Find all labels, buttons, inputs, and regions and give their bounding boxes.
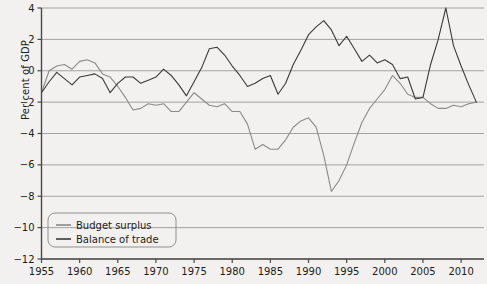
x-tick-label: 2005 — [410, 266, 435, 277]
x-axis-ticks: 1955196019651970197519801985199019952000… — [29, 259, 474, 277]
x-tick-label: 2010 — [448, 266, 473, 277]
x-tick-label: 1970 — [143, 266, 168, 277]
y-tick-label: 4 — [28, 3, 34, 14]
legend-label-1: Balance of trade — [76, 234, 159, 245]
y-tick-label: 0 — [28, 65, 34, 76]
x-tick-label: 2000 — [372, 266, 397, 277]
x-tick-label: 1995 — [334, 266, 359, 277]
y-axis-ticks: 420−2−4−6−8−10−12 — [13, 3, 41, 265]
y-tick-label: −4 — [20, 128, 35, 139]
x-tick-label: 1975 — [181, 266, 206, 277]
legend-label-0: Budget surplus — [76, 220, 151, 231]
x-tick-label: 1980 — [220, 266, 245, 277]
y-tick-label: −8 — [20, 191, 35, 202]
y-tick-label: −2 — [20, 97, 35, 108]
x-tick-label: 1960 — [67, 266, 92, 277]
data-series — [42, 8, 477, 192]
chart-figure: Per cent of GDP 420−2−4−6−8−10−12 195519… — [0, 0, 487, 284]
x-tick-label: 1955 — [29, 266, 54, 277]
line-chart-plot: 420−2−4−6−8−10−12 1955196019651970197519… — [0, 0, 487, 284]
x-tick-label: 1990 — [296, 266, 321, 277]
y-tick-label: −12 — [13, 254, 34, 265]
y-tick-label: −10 — [13, 222, 34, 233]
chart-legend[interactable]: Budget surplusBalance of trade — [48, 213, 176, 247]
x-tick-label: 1985 — [258, 266, 283, 277]
y-tick-label: 2 — [28, 34, 34, 45]
x-tick-label: 1965 — [105, 266, 130, 277]
series-line-balance-of-trade — [42, 8, 477, 102]
y-tick-label: −6 — [20, 159, 35, 170]
series-line-budget-surplus — [42, 60, 477, 192]
